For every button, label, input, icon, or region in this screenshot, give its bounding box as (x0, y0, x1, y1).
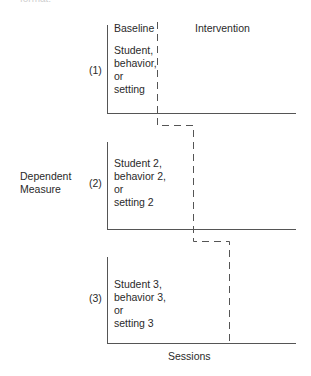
panel-3-label: Student 3, behavior 3, or setting 3 (114, 278, 166, 330)
panel-1-number: (1) (89, 64, 102, 77)
panel-3-number: (3) (89, 292, 102, 305)
x-axis-label: Sessions (168, 350, 211, 363)
panel-1-label: Student, behavior, or setting (114, 44, 157, 96)
panel-2-label: Student 2, behavior 2, or setting 2 (114, 157, 166, 209)
panel-2-number: (2) (89, 177, 102, 190)
baseline-label: Baseline (114, 22, 154, 35)
phase-change-line (158, 22, 230, 343)
y-axis-label: Dependent Measure (20, 170, 71, 196)
intervention-label: Intervention (195, 22, 250, 35)
